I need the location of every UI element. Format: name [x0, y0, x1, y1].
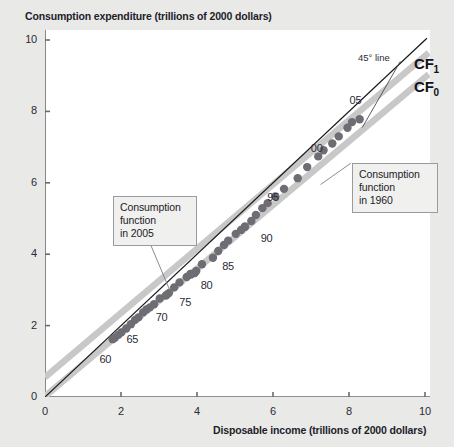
data-point: [192, 267, 200, 275]
y-tick-label: 2: [15, 319, 37, 331]
data-point: [303, 163, 311, 171]
data-point: [335, 132, 343, 140]
y-tick-label: 0: [15, 390, 37, 402]
data-point: [252, 211, 260, 219]
data-point: [224, 236, 232, 244]
series-label-cf0: CF0: [414, 78, 439, 98]
point-year-label: 60: [100, 353, 112, 365]
cf0-label-subscript: 0: [434, 87, 439, 98]
consumption-function-chart: Consumption expenditure (trillions of 20…: [0, 0, 454, 447]
data-point: [209, 254, 217, 262]
y-tick-label: 6: [15, 176, 37, 188]
x-tick-label: 2: [110, 405, 132, 417]
series-label-cf1: CF1: [414, 55, 439, 75]
data-point: [348, 118, 356, 126]
y-tick-label: 4: [15, 247, 37, 259]
data-point: [198, 260, 206, 268]
callout-1960-leader: [321, 163, 351, 184]
data-point: [328, 139, 336, 147]
point-year-label: 95: [267, 191, 279, 203]
point-year-label: 05: [350, 94, 362, 106]
point-year-label: 00: [311, 142, 323, 154]
callout-2005-line-3: in 2005: [120, 227, 190, 240]
x-axis-title: Disposable income (trillions of 2000 dol…: [213, 424, 426, 436]
45-degree-line-label: 45° line: [358, 52, 390, 63]
callout-2005-line-1: Consumption: [120, 201, 190, 214]
plot-svg: [45, 30, 430, 397]
callout-1960-line-2: function: [359, 181, 431, 194]
data-point: [280, 185, 288, 193]
plot-area: [45, 30, 430, 397]
x-tick-label: 4: [186, 405, 208, 417]
x-tick-label: 10: [414, 405, 436, 417]
point-year-label: 65: [127, 333, 139, 345]
cf0-label-text: CF: [414, 78, 434, 95]
point-year-label: 80: [201, 279, 213, 291]
cf1-label-subscript: 1: [434, 64, 439, 75]
data-point: [175, 278, 183, 286]
cf1-line: [45, 53, 429, 378]
y-tick-label: 8: [15, 104, 37, 116]
point-year-label: 90: [261, 232, 273, 244]
y-tick-label: 10: [15, 33, 37, 45]
x-tick-label: 0: [34, 405, 56, 417]
x-tick-label: 8: [338, 405, 360, 417]
point-year-label: 75: [179, 296, 191, 308]
point-year-label: 70: [156, 311, 168, 323]
point-year-label: 85: [222, 260, 234, 272]
callout-consumption-function-1960: Consumption function in 1960: [352, 163, 438, 213]
chart-title: Consumption expenditure (trillions of 20…: [25, 10, 272, 22]
x-tick-label: 6: [262, 405, 284, 417]
45-degree-line: [45, 38, 427, 397]
data-point: [241, 223, 249, 231]
data-point: [294, 174, 302, 182]
callout-1960-line-3: in 1960: [359, 194, 431, 207]
cf1-label-text: CF: [414, 55, 434, 72]
callout-2005-line-2: function: [120, 214, 190, 227]
data-point: [355, 115, 363, 123]
callout-consumption-function-2005: Consumption function in 2005: [113, 196, 197, 246]
callout-1960-line-1: Consumption: [359, 168, 431, 181]
